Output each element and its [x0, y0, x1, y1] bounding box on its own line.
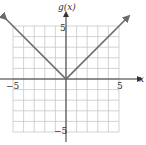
x-tick-5: 5	[117, 81, 123, 91]
x-tick-neg5: −5	[6, 81, 20, 91]
y-tick-neg5: −5	[54, 126, 68, 136]
x-axis-label: x	[139, 74, 144, 84]
chart-canvas: g(x) x −5 5 5 −5	[0, 0, 146, 145]
y-tick-5: 5	[60, 23, 66, 33]
y-axis-label: g(x)	[58, 2, 76, 12]
